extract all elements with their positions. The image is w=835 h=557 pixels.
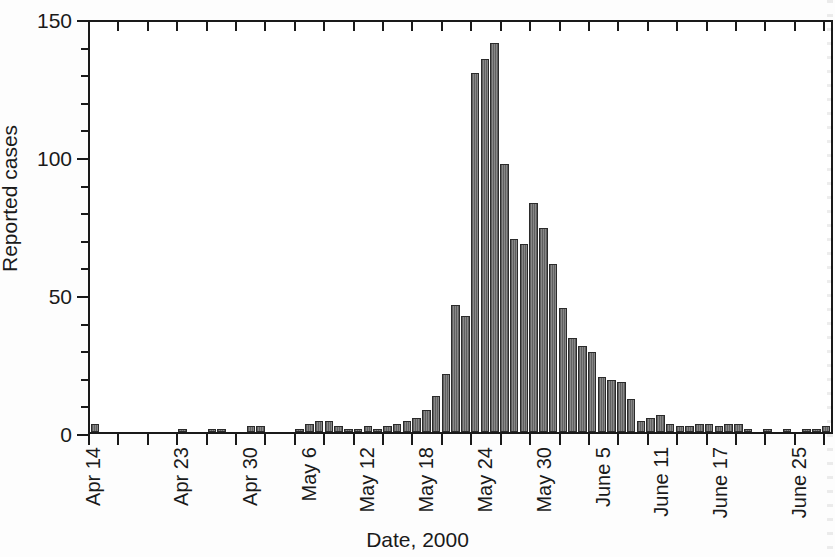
bar-slot xyxy=(236,22,246,432)
bar xyxy=(500,164,508,432)
bar xyxy=(715,426,723,432)
x-tick xyxy=(411,434,413,445)
x-tick xyxy=(441,20,443,31)
x-tick xyxy=(294,434,296,445)
x-tick xyxy=(559,20,561,31)
x-axis-title: Date, 2000 xyxy=(0,528,835,552)
bar xyxy=(373,429,381,432)
bar xyxy=(295,429,303,432)
x-tick xyxy=(264,20,266,31)
bar-slot xyxy=(743,22,753,432)
x-tick xyxy=(382,20,384,31)
x-tick xyxy=(764,20,766,31)
bar-slot xyxy=(792,22,802,432)
bar-slot xyxy=(773,22,783,432)
x-tick xyxy=(176,434,178,445)
bar-slot xyxy=(256,22,266,432)
y-tick-minor xyxy=(81,213,88,215)
bar-slot xyxy=(373,22,383,432)
bar-slot xyxy=(597,22,607,432)
y-tick-minor xyxy=(81,103,88,105)
bar-slot xyxy=(821,22,831,432)
bar xyxy=(666,424,674,432)
bar-slot xyxy=(578,22,588,432)
x-tick xyxy=(794,434,796,445)
x-tick xyxy=(647,20,649,31)
bar xyxy=(705,424,713,432)
x-tick xyxy=(470,434,472,445)
x-tick xyxy=(235,434,237,445)
y-tick-major xyxy=(77,296,88,298)
bar xyxy=(578,346,586,432)
bar-slot xyxy=(724,22,734,432)
bar xyxy=(539,228,547,432)
bar xyxy=(247,426,255,432)
bar-slot xyxy=(285,22,295,432)
bar-slot xyxy=(334,22,344,432)
bar-slot xyxy=(656,22,666,432)
x-tick-label: May 12 xyxy=(357,447,377,513)
x-tick xyxy=(411,20,413,31)
x-tick-label: June 11 xyxy=(651,447,671,517)
bar xyxy=(685,426,693,432)
x-tick xyxy=(382,434,384,445)
y-tick-minor xyxy=(81,324,88,326)
bar xyxy=(763,429,771,432)
bar-slot xyxy=(110,22,120,432)
y-tick-minor xyxy=(81,268,88,270)
plot-area xyxy=(88,20,833,434)
x-tick xyxy=(529,434,531,445)
bar xyxy=(412,418,420,432)
bar xyxy=(364,426,372,432)
bar xyxy=(91,424,99,432)
x-tick xyxy=(559,434,561,445)
x-tick xyxy=(294,20,296,31)
bar-slot xyxy=(734,22,744,432)
bar-slot xyxy=(548,22,558,432)
x-tick xyxy=(735,434,737,445)
bar xyxy=(627,399,635,432)
bar xyxy=(646,418,654,432)
bar-slot xyxy=(509,22,519,432)
bar-slot xyxy=(217,22,227,432)
x-tick xyxy=(88,434,90,445)
bar-series xyxy=(90,22,831,432)
bar xyxy=(354,429,362,432)
epidemic-curve-figure: 150 100 50 0 Reported cases Apr 14Apr 23… xyxy=(0,0,835,557)
x-tick xyxy=(617,434,619,445)
bar xyxy=(315,421,323,432)
x-tick-label: June 5 xyxy=(593,447,613,507)
y-tick-label-0: 0 xyxy=(60,424,72,445)
bar xyxy=(598,377,606,432)
bar xyxy=(305,424,313,432)
bar-slot xyxy=(461,22,471,432)
x-tick-label: Apr 23 xyxy=(171,447,191,506)
x-tick-label: Apr 14 xyxy=(83,447,103,506)
bar xyxy=(490,43,498,432)
bar xyxy=(656,415,664,432)
bar-slot xyxy=(441,22,451,432)
y-tick-label-50: 50 xyxy=(49,286,72,307)
bar-slot xyxy=(149,22,159,432)
x-tick-label: Apr 30 xyxy=(240,447,260,506)
bar-slot xyxy=(539,22,549,432)
bar xyxy=(325,421,333,432)
bar xyxy=(432,396,440,432)
bar-slot xyxy=(392,22,402,432)
bar xyxy=(637,421,645,432)
bar-slot xyxy=(587,22,597,432)
bar-slot xyxy=(665,22,675,432)
bar xyxy=(451,305,459,432)
y-tick-minor xyxy=(81,406,88,408)
y-tick-minor xyxy=(81,351,88,353)
x-tick xyxy=(706,434,708,445)
y-tick-major xyxy=(77,20,88,22)
bar xyxy=(617,382,625,432)
bar xyxy=(344,429,352,432)
bar xyxy=(520,244,528,432)
bar-slot xyxy=(188,22,198,432)
bar xyxy=(607,380,615,432)
bar-slot xyxy=(685,22,695,432)
bar-slot xyxy=(519,22,529,432)
x-tick xyxy=(647,434,649,445)
